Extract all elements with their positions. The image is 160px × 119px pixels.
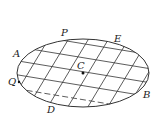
label-c: C	[77, 60, 85, 71]
label-q: Q	[8, 76, 16, 87]
center-point	[82, 72, 85, 75]
label-d: D	[46, 104, 55, 115]
ellipse-grid-diagram: P E A Q C D B	[0, 0, 160, 119]
point-q	[18, 81, 20, 83]
label-e: E	[113, 33, 122, 44]
diagram-canvas: P E A Q C D B	[0, 0, 160, 119]
label-p: P	[60, 27, 68, 38]
label-a: A	[12, 48, 20, 59]
label-b: B	[142, 89, 150, 100]
